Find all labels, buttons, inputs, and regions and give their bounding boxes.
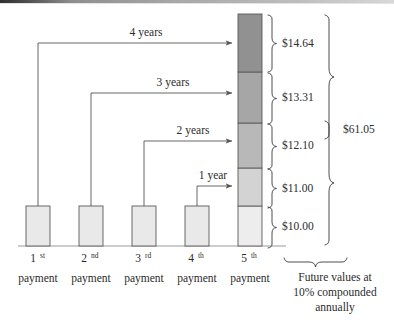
- value-label-10-00: $10.00: [282, 220, 314, 232]
- total-brace-group: $61.05: [325, 15, 375, 245]
- payment-bar-2: [79, 206, 103, 246]
- axis-ordinal-1: 1: [30, 252, 36, 264]
- axis-label-3: 3 rd payment: [124, 251, 164, 285]
- payment-bar-1: [26, 206, 50, 246]
- total-value-label: $61.05: [343, 123, 375, 135]
- stack-segment-14-64: [238, 14, 262, 72]
- arrow-1-year-path: [197, 186, 232, 206]
- stack-segment-11-00: [238, 168, 262, 206]
- axis-label-5: 5 th payment: [230, 251, 270, 285]
- axis-word-5: payment: [230, 272, 270, 285]
- axis-label-1: 1 st payment: [18, 251, 58, 285]
- segment-braces: $14.64 $13.31 $12.10 $11.00 $10.00: [268, 15, 314, 248]
- axis-ordinal-suffix-4: th: [198, 251, 204, 260]
- stacked-future-value-column: [238, 14, 262, 246]
- arrow-2-years: 2 years: [144, 124, 232, 206]
- stack-segment-10-00: [238, 206, 262, 246]
- caption-line-1: Future values at: [298, 271, 372, 283]
- axis-word-2: payment: [71, 272, 111, 285]
- brace-13-31: [268, 73, 277, 124]
- axis-ordinal-suffix-5: th: [251, 251, 257, 260]
- brace-14-64: [268, 15, 277, 72]
- annuity-future-value-diagram: 4 years 3 years 2 years 1 year $14.64 $1…: [0, 0, 394, 327]
- axis-tick-labels: 1 st payment 2 nd payment 3 rd payment 4…: [18, 251, 270, 285]
- axis-label-2: 2 nd payment: [71, 251, 111, 285]
- value-label-13-31: $13.31: [282, 91, 314, 103]
- value-label-12-10: $12.10: [282, 139, 314, 151]
- axis-ordinal-5: 5: [241, 252, 247, 264]
- stack-segment-13-31: [238, 72, 262, 123]
- axis-label-4: 4 th payment: [177, 251, 217, 285]
- payment-bar-4: [185, 206, 209, 246]
- axis-ordinal-suffix-3: rd: [145, 251, 151, 260]
- brace-total-lower: [325, 121, 334, 245]
- brace-12-10: [268, 124, 277, 169]
- axis-ordinal-2: 2: [81, 252, 87, 264]
- brace-10-00: [268, 207, 277, 248]
- arrow-2-years-label: 2 years: [177, 124, 210, 137]
- axis-ordinal-suffix-1: st: [40, 251, 46, 260]
- arrow-3-years-path: [91, 93, 232, 206]
- arrow-1-year: 1 year: [197, 169, 232, 206]
- axis-ordinal-4: 4: [188, 252, 194, 264]
- axis-ordinal-3: 3: [135, 252, 141, 264]
- value-label-11-00: $11.00: [282, 182, 313, 194]
- brace-caption: [284, 258, 347, 267]
- axis-word-4: payment: [177, 272, 217, 285]
- arrow-3-years-label: 3 years: [157, 76, 190, 89]
- stack-segment-12-10: [238, 123, 262, 168]
- arrow-4-years-label: 4 years: [130, 26, 163, 39]
- brace-11-00: [268, 169, 277, 208]
- axis-word-1: payment: [18, 272, 58, 285]
- axis-ordinal-suffix-2: nd: [91, 251, 99, 260]
- value-label-14-64: $14.64: [282, 37, 314, 49]
- caption-line-2: 10% compounded: [293, 286, 377, 299]
- axis-word-3: payment: [124, 272, 164, 285]
- arrow-1-year-label: 1 year: [199, 169, 228, 182]
- payment-bar-3: [132, 206, 156, 246]
- payment-bars: [26, 206, 209, 246]
- caption-line-3: annually: [315, 301, 355, 314]
- caption-group: Future values at 10% compounded annually: [284, 258, 377, 314]
- brace-total-upper: [325, 15, 334, 139]
